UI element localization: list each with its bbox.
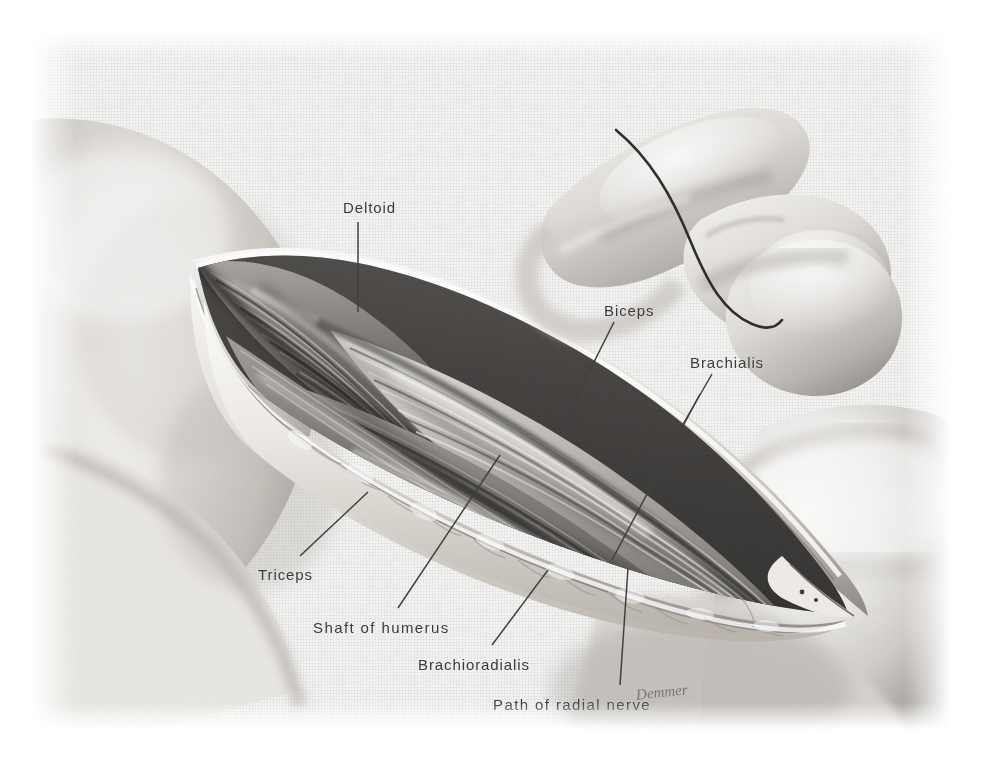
- label-biceps: Biceps: [604, 302, 654, 319]
- label-path-of-radial-nerve: Path of radial nerve: [493, 696, 651, 713]
- label-triceps: Triceps: [258, 566, 313, 583]
- label-deltoid: Deltoid: [343, 199, 396, 216]
- label-shaft-of-humerus: Shaft of humerus: [313, 619, 450, 636]
- illustration-plate: Deltoid Biceps Brachialis Triceps Shaft …: [0, 0, 994, 783]
- label-brachioradialis: Brachioradialis: [418, 656, 530, 673]
- print-grain: [30, 30, 950, 730]
- label-brachialis: Brachialis: [690, 354, 764, 371]
